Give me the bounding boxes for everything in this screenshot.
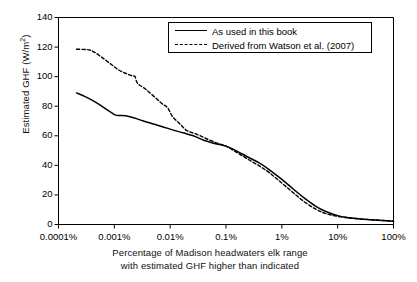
y-axis-tick-label: 140 [19,11,53,22]
x-axis-tick-label: 1% [252,231,312,242]
legend-label: As used in this book [212,26,297,37]
x-axis-tick-label: 0.001% [84,231,144,242]
legend-item-as-used-in-this-book: As used in this book [175,24,297,38]
y-axis-tick-label: 100 [19,70,53,81]
chart-figure: Estimated GHF (W/m2) Percentage of Madis… [0,0,417,282]
x-axis-tick-label: 0.0001% [29,231,89,242]
legend-dashed-line-icon [175,41,207,49]
x-axis-tick-label: 10% [308,231,368,242]
x-axis-title-line1: Percentage of Madison headwaters elk ran… [40,246,380,259]
legend-solid-line-icon [175,27,207,35]
x-axis-title-line2: with estimated GHF higher than indicated [40,259,380,272]
y-axis-tick-label: 120 [19,41,53,52]
y-axis-title-main: Estimated GHF (W/m [20,42,31,134]
x-axis-tick-label: 100% [364,231,417,242]
y-axis-tick-label: 40 [19,159,53,170]
y-axis-tick-label: 0 [19,218,53,229]
legend-item-derived-from-watson: Derived from Watson et al. (2007) [175,38,354,52]
chart-legend: As used in this book Derived from Watson… [168,22,372,53]
legend-label: Derived from Watson et al. (2007) [212,40,354,51]
x-axis-title: Percentage of Madison headwaters elk ran… [40,246,380,272]
x-axis-tick-label: 0.01% [140,231,200,242]
y-axis-tick-label: 80 [19,100,53,111]
y-axis-tick-label: 60 [19,129,53,140]
y-axis-tick-label: 20 [19,188,53,199]
y-axis-title-close: ) [20,34,31,37]
x-axis-tick-label: 0.1% [196,231,256,242]
y-axis-title: Estimated GHF (W/m2) [19,0,31,169]
